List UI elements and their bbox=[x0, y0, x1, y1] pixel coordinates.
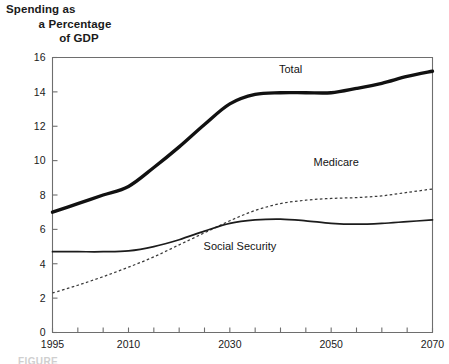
y-tick-label: 2 bbox=[40, 292, 46, 304]
y-tick-label: 6 bbox=[40, 223, 46, 235]
chart-axes: 0246810121416 19952010203020502070 bbox=[34, 51, 445, 349]
y-axis-ticks bbox=[53, 58, 58, 333]
x-tick-label: 2050 bbox=[319, 338, 343, 350]
y-tick-label: 16 bbox=[34, 51, 46, 63]
x-tick-label: 2070 bbox=[421, 338, 445, 350]
x-axis-ticks bbox=[53, 328, 433, 333]
y-tick-label: 0 bbox=[40, 326, 46, 338]
y-axis-tick-labels: 0246810121416 bbox=[34, 51, 46, 338]
series-label-medicare: Medicare bbox=[314, 156, 359, 168]
series-line-total bbox=[53, 71, 433, 212]
chart-plot: 0246810121416 19952010203020502070 Total… bbox=[0, 0, 449, 364]
figure-container: Spending as a Percentage of GDP 02468101… bbox=[0, 0, 449, 364]
x-tick-label: 2030 bbox=[218, 338, 242, 350]
x-axis-tick-labels: 19952010203020502070 bbox=[41, 338, 445, 350]
y-tick-label: 12 bbox=[34, 120, 46, 132]
series-label-total: Total bbox=[279, 63, 302, 75]
y-tick-label: 4 bbox=[40, 258, 46, 270]
y-tick-label: 14 bbox=[34, 86, 46, 98]
x-tick-label: 2010 bbox=[117, 338, 141, 350]
figure-footnote: FIGURE bbox=[18, 356, 58, 364]
chart-series-group bbox=[53, 71, 433, 293]
x-tick-label: 1995 bbox=[41, 338, 65, 350]
y-tick-label: 10 bbox=[34, 154, 46, 166]
y-tick-label: 8 bbox=[40, 189, 46, 201]
series-label-social-security: Social Security bbox=[204, 240, 277, 252]
